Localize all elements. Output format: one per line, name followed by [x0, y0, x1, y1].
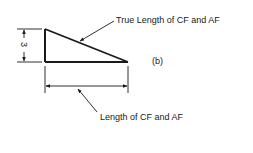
height-value: 3	[19, 42, 28, 47]
length-label: Length of CF and AF	[100, 113, 183, 122]
true-length-leader	[80, 21, 114, 41]
triangle	[45, 29, 128, 62]
true-length-label: True Length of CF and AF	[116, 16, 220, 25]
figure-label: (b)	[152, 57, 163, 66]
length-leader	[78, 89, 97, 112]
length-dimension	[45, 66, 128, 93]
